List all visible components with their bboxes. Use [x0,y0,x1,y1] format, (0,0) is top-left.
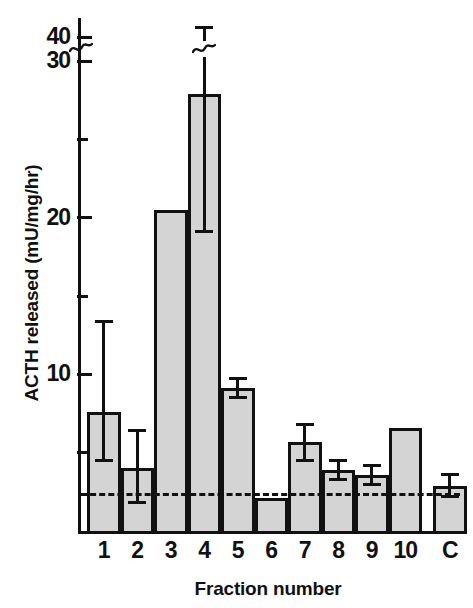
error-bar-cap-upper [329,459,347,462]
y-tick-major-20 [77,216,92,219]
y-axis-break-icon [69,39,93,57]
error-bar-cap-upper [128,429,146,432]
y-tick-label-10: 10 [46,362,70,385]
plot-area: 40302010 12345678910C [78,18,463,534]
x-tick-label-6: 6 [255,539,289,562]
error-bar-cap-upper [296,423,314,426]
error-bar-8 [322,459,356,481]
error-bar-cap-upper [195,26,213,29]
y-axis-line [78,18,81,534]
bar-5 [221,388,255,534]
error-bar-cap-lower [95,459,113,462]
y-axis-title: ACTH released (mU/mg/hr) [21,103,43,463]
error-bar-cap-lower [363,483,381,486]
baseline-reference-line [81,493,460,496]
error-bar-9 [355,464,389,486]
error-bar-stem [303,423,306,462]
error-bar-cap-lower [296,459,314,462]
y-tick-minor-15 [77,295,88,298]
bar-3 [154,210,188,534]
x-tick-label-2: 2 [121,539,155,562]
error-bar-4 [188,26,222,233]
x-tick-label-8: 8 [322,539,356,562]
x-axis-title: Fraction number [78,578,458,600]
error-bar-cap-lower [229,396,247,399]
figure-acth-bar-chart: ACTH released (mU/mg/hr) Fraction number… [0,0,473,608]
x-tick-label-C: C [433,539,467,562]
y-tick-minor-25 [77,138,88,141]
error-bar-break-icon [192,41,216,57]
error-bar-cap-lower [128,501,146,504]
error-bar-cap-lower [329,478,347,481]
x-tick-label-3: 3 [154,539,188,562]
error-bar-1 [87,320,121,463]
error-bar-5 [221,377,255,399]
error-bar-cap-upper [363,464,381,467]
error-bar-cap-upper [229,377,247,380]
x-tick-label-7: 7 [288,539,322,562]
error-bar-cap-upper [441,473,459,476]
x-tick-label-10: 10 [389,539,423,562]
x-tick-label-9: 9 [355,539,389,562]
error-bar-stem [102,320,105,463]
x-tick-label-1: 1 [87,539,121,562]
error-bar-7 [288,423,322,462]
x-tick-label-5: 5 [221,539,255,562]
bar-10 [389,428,423,534]
y-tick-major-30 [77,60,92,63]
y-tick-label-40: 40 [46,25,70,48]
y-tick-label-20: 20 [46,206,70,229]
y-tick-label-30: 30 [46,49,70,72]
error-bar-cap-lower [195,230,213,233]
error-bar-cap-upper [95,320,113,323]
x-tick-label-4: 4 [188,539,222,562]
bar-6 [255,498,289,534]
error-bar-stem [203,26,206,233]
